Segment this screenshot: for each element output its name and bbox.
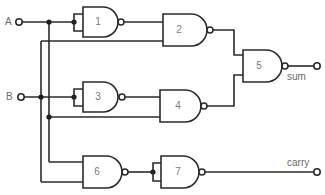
- gate-4-number: 4: [175, 101, 181, 111]
- input-a-label: A: [5, 17, 12, 27]
- gate-4: [160, 75, 243, 122]
- input-b-label: B: [6, 92, 13, 102]
- gate-5: [243, 50, 320, 82]
- gate-5-number: 5: [256, 61, 262, 71]
- logic-circuit-diagram: A B sum carry 1 2 3 4 5 6 7: [0, 0, 325, 195]
- input-a-terminal: [16, 19, 74, 25]
- sum-output-label: sum: [287, 72, 306, 82]
- gate-3: [71, 82, 160, 112]
- gate-6-number: 6: [94, 167, 100, 177]
- carry-output-label: carry: [287, 158, 309, 168]
- gate-2: [163, 14, 243, 55]
- gate-1: [71, 7, 163, 37]
- gate-7-number: 7: [175, 167, 181, 177]
- circuit-canvas: [0, 0, 325, 195]
- gate-3-number: 3: [95, 92, 101, 102]
- input-b-terminal: [18, 94, 74, 100]
- gate-1-number: 1: [95, 17, 101, 27]
- gate-2-number: 2: [176, 25, 182, 35]
